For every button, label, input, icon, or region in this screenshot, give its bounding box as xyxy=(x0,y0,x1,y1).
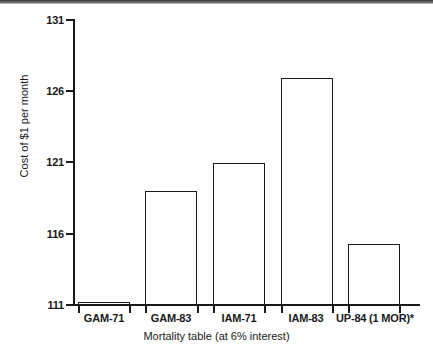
bar-gam-83 xyxy=(145,191,197,305)
y-tick-label-121-wrap: 121 xyxy=(0,156,64,168)
y-tick-mark-111 xyxy=(66,304,74,306)
y-tick-label-131-wrap: 131 xyxy=(0,14,64,26)
y-tick-label-111: 111 xyxy=(4,299,64,311)
y-tick-label-116: 116 xyxy=(4,228,64,240)
y-tick-mark-126 xyxy=(66,90,74,92)
bar-iam-71 xyxy=(213,163,265,306)
y-tick-label-111-wrap: 111 xyxy=(0,299,64,311)
y-tick-label-131: 131 xyxy=(4,14,64,26)
x-axis-title: Mortality table (at 6% interest) xyxy=(0,330,433,342)
y-tick-label-126-wrap: 126 xyxy=(0,85,64,97)
y-axis-title: Cost of $1 per month xyxy=(18,56,30,196)
y-tick-mark-116 xyxy=(66,233,74,235)
y-tick-label-116-wrap: 116 xyxy=(0,228,64,240)
y-tick-label-121: 121 xyxy=(4,156,64,168)
bar-chart-figure: 131 126 121 116 111 Cost of $1 per month… xyxy=(0,0,433,357)
y-tick-label-126: 126 xyxy=(4,85,64,97)
x-tick-label-up-84: UP-84 (1 MOR)* xyxy=(320,312,430,324)
y-tick-mark-131 xyxy=(66,19,74,21)
bar-up-84 xyxy=(348,244,400,305)
bar-gam-71 xyxy=(78,302,130,305)
y-tick-mark-121 xyxy=(66,161,74,163)
bar-iam-83 xyxy=(281,78,333,305)
